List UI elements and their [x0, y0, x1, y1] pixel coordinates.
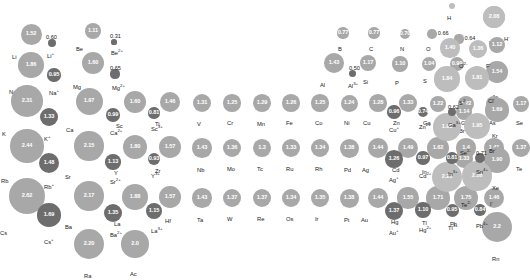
radius-value: 1.35: [108, 210, 118, 216]
atom-sphere-p: 1.10: [392, 56, 407, 71]
radius-value: 1.69: [492, 107, 502, 113]
cation-sphere-na-ion: 0.95: [47, 68, 60, 81]
element-symbol-cs-ion: Cs+: [44, 240, 54, 246]
radius-value-external: 0.66: [438, 31, 449, 37]
radius-value: 1.48: [44, 160, 54, 166]
cation-sphere-cd-ion: 0.97: [416, 151, 429, 164]
radius-value: 1.37: [516, 145, 526, 151]
radius-value: 1.35: [315, 195, 325, 201]
radius-value-external: 0.31: [110, 34, 121, 40]
element-symbol-tl-ion: Tl3+: [448, 226, 458, 232]
element-symbol-te-ion: Te2-: [461, 203, 471, 209]
atom-sphere-mo: 1.36: [223, 139, 242, 158]
cation-sphere-y-ion: 0.93: [148, 153, 161, 166]
element-symbol-re: Re: [257, 217, 264, 223]
atom-sphere-ta: 1.43: [192, 188, 212, 208]
cation-sphere-in-ion: 0.81: [446, 152, 457, 163]
radius-value: 1.26: [389, 156, 399, 162]
radius-value: 1.24: [344, 100, 354, 106]
cation-sphere-la-ion: 1.15: [146, 203, 162, 219]
element-symbol-mg-ion: Mg2+: [112, 86, 125, 92]
radius-value: 1.44: [373, 195, 383, 201]
element-symbol-sr: Sr: [65, 175, 71, 181]
element-symbol-mo: Mo: [227, 167, 235, 173]
atom-sphere-li: 1.52: [21, 24, 42, 45]
radius-value: 1.26: [286, 100, 296, 106]
element-symbol-si: Si: [363, 80, 368, 86]
atom-sphere-rb: 2.44: [10, 129, 43, 162]
atom-sphere-te: 1.37: [512, 139, 530, 158]
radius-value: 1.3: [258, 145, 265, 151]
element-symbol-li-ion: Li+: [47, 54, 54, 60]
radius-value: 1.90: [492, 157, 502, 163]
radius-value: 1.04: [424, 61, 434, 67]
atom-sphere-ni: 1.24: [341, 95, 358, 112]
radius-value: 2.62: [22, 193, 32, 199]
cation-sphere-rb-ion: 1.48: [39, 153, 59, 173]
radius-value: 1.10: [395, 61, 405, 67]
radius-value: 0.96: [389, 109, 399, 115]
radius-value: 1.52: [26, 31, 36, 37]
cation-sphere-cu-ion: 0.96: [387, 105, 400, 118]
radius-value: 1.60: [130, 99, 140, 105]
radius-value: 1.80: [130, 144, 140, 150]
element-symbol-ca-ion: Ca2+: [110, 131, 122, 137]
radius-value: 0.99: [108, 112, 118, 118]
atom-sphere-v: 1.31: [193, 94, 211, 112]
atom-sphere-n: 0.70: [400, 29, 410, 39]
radius-value: 1.29: [257, 100, 267, 106]
radius-value: 1.69: [44, 212, 54, 218]
atom-sphere-ne: 1.12: [489, 37, 505, 53]
radius-value: 0.70: [400, 31, 410, 37]
element-symbol-li: Li: [12, 55, 17, 61]
element-symbol-v: V: [197, 122, 201, 128]
element-symbol-be-ion: Be2+: [111, 51, 123, 57]
element-symbol-in-ion: In3+: [448, 172, 458, 178]
element-symbol-hg-ion: Hg2+: [419, 228, 431, 234]
element-symbol-rh: Rh: [315, 167, 322, 173]
atom-sphere-c: 0.77: [368, 27, 379, 38]
radius-value: 0.77: [338, 30, 348, 36]
atom-sphere-be: 1.11: [85, 23, 101, 39]
atom-sphere-na: 1.86: [18, 52, 44, 78]
element-symbol-mn: Mn: [257, 122, 265, 128]
radius-value: 1.17: [516, 101, 526, 107]
element-symbol-cs: Cs: [0, 231, 7, 237]
element-symbol-rb-ion: Rb+: [44, 185, 54, 191]
radius-value: 1.11: [88, 28, 98, 34]
radius-value: 1.34: [286, 195, 296, 201]
radius-value: 1.81: [472, 75, 482, 81]
atom-sphere-ra: 2.20: [74, 229, 104, 259]
element-symbol-b: B: [338, 47, 342, 53]
atom-sphere-os: 1.34: [282, 189, 300, 207]
anion-sphere-cl-ion: 1.81: [465, 66, 490, 91]
radius-value: 1.33: [403, 100, 413, 106]
element-symbol-cl-ion: Cl-: [488, 99, 495, 105]
element-symbol-h-ion: H-: [504, 37, 510, 43]
element-symbol-ag: Ag: [362, 168, 369, 174]
element-symbol-zn-ion: Zn2+: [419, 125, 431, 131]
atom-sphere-ga: 1.22: [430, 96, 447, 113]
atom-sphere-ba: 2.17: [74, 181, 104, 211]
element-symbol-mg: Mg: [73, 85, 81, 91]
radius-value-external: 0.50: [349, 66, 360, 72]
atom-sphere-fe: 1.26: [282, 94, 299, 111]
radius-value: 1.97: [84, 98, 94, 104]
element-symbol-fe: Fe: [286, 121, 293, 127]
radius-value: 1.36: [227, 145, 237, 151]
element-symbol-h: H: [447, 16, 451, 22]
element-symbol-ca: Ca: [66, 128, 73, 134]
element-symbol-i-ion: I-: [490, 202, 493, 208]
element-symbol-s-ion: S2-: [459, 101, 467, 107]
atom-sphere-la: 1.88: [122, 184, 148, 210]
radius-value: 1.34: [315, 145, 325, 151]
cation-sphere-be-ion: [111, 39, 116, 44]
cation-sphere-tl-ion: 0.95: [446, 204, 459, 217]
radius-value: 1.60: [88, 60, 98, 66]
atom-sphere-zr: 1.57: [159, 136, 181, 158]
element-symbol-be: Be: [76, 47, 83, 53]
element-symbol-ag-ion: Ag+: [389, 178, 399, 184]
radius-value: 1.37: [257, 195, 267, 201]
element-symbol-cd: Cd: [392, 168, 399, 174]
